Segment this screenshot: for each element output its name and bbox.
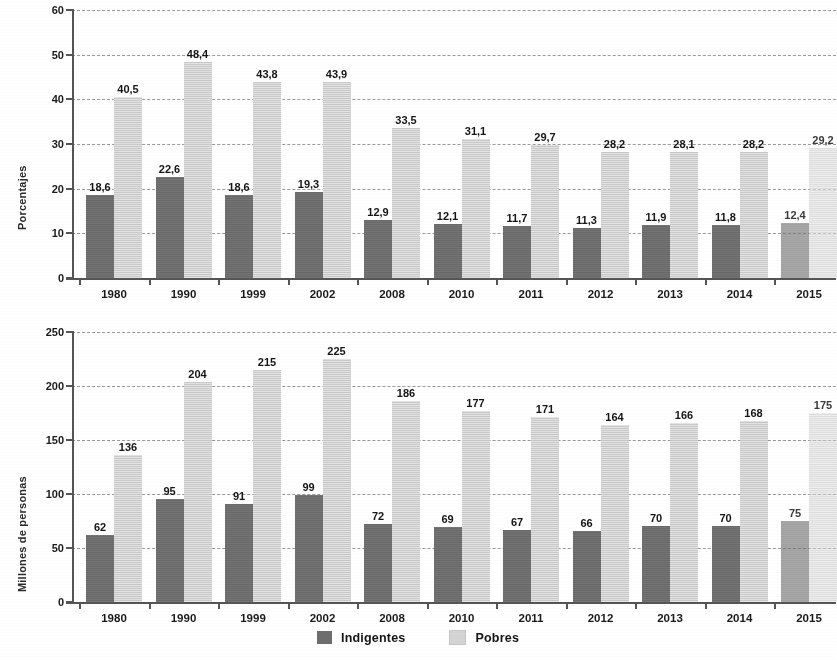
bar-indigentes-1999 bbox=[225, 195, 253, 278]
bar-indigentes-2013 bbox=[642, 526, 670, 602]
value-label-pobres-2015: 175 bbox=[814, 399, 832, 411]
y-tick-mark bbox=[66, 9, 74, 11]
x-axis-label-2013: 2013 bbox=[657, 612, 683, 624]
plot-area-millones: 0501001502002506213619809520419909121519… bbox=[72, 332, 836, 602]
x-tick-mark bbox=[357, 602, 359, 609]
value-label-pobres-2013: 166 bbox=[675, 409, 693, 421]
legend-swatch-indigentes bbox=[317, 631, 332, 644]
y-tick-label: 40 bbox=[52, 93, 64, 105]
x-axis-label-2008: 2008 bbox=[379, 288, 405, 300]
value-label-indigentes-1980: 18,6 bbox=[89, 181, 110, 193]
bar-indigentes-2002 bbox=[295, 495, 323, 602]
bar-indigentes-2008 bbox=[364, 220, 392, 278]
legend-label-indigentes: Indigentes bbox=[341, 631, 406, 645]
value-label-indigentes-2012: 11,3 bbox=[576, 214, 597, 226]
bar-indigentes-2015 bbox=[781, 223, 809, 278]
x-axis-label-2011: 2011 bbox=[519, 288, 544, 300]
value-label-indigentes-2010: 69 bbox=[441, 513, 453, 525]
x-axis-label-2010: 2010 bbox=[449, 288, 475, 300]
x-axis-label-2015: 2015 bbox=[796, 612, 822, 624]
bar-indigentes-1980 bbox=[86, 195, 114, 278]
bar-pobres-2002 bbox=[323, 82, 351, 278]
y-tick-mark bbox=[66, 232, 74, 234]
bar-pobres-2008 bbox=[392, 401, 420, 602]
x-axis-label-2011: 2011 bbox=[519, 612, 544, 624]
value-label-indigentes-2002: 99 bbox=[302, 481, 314, 493]
plot-area-porcentajes: 010203040506018,640,5198022,648,4199018,… bbox=[72, 10, 836, 278]
y-tick-mark bbox=[66, 385, 74, 387]
x-axis-label-2015: 2015 bbox=[796, 288, 822, 300]
bar-indigentes-2012 bbox=[573, 228, 601, 278]
chart-panel-porcentajes: Porcentajes 010203040506018,640,5198022,… bbox=[0, 0, 836, 310]
bar-pobres-2010 bbox=[462, 139, 490, 278]
x-tick-mark bbox=[705, 278, 707, 285]
value-label-indigentes-2002: 19,3 bbox=[298, 178, 319, 190]
bar-indigentes-1990 bbox=[156, 177, 184, 278]
x-tick-mark bbox=[427, 278, 429, 285]
x-tick-mark bbox=[218, 602, 220, 609]
value-label-indigentes-1990: 95 bbox=[163, 485, 175, 497]
x-axis-label-2002: 2002 bbox=[310, 288, 336, 300]
value-label-indigentes-2014: 11,8 bbox=[715, 211, 736, 223]
legend-swatch-pobres bbox=[449, 630, 466, 645]
bar-indigentes-2014 bbox=[712, 225, 740, 278]
value-label-pobres-2014: 168 bbox=[744, 407, 762, 419]
value-label-pobres-1980: 40,5 bbox=[117, 83, 138, 95]
bar-pobres-2013 bbox=[670, 152, 698, 278]
value-label-pobres-2013: 28,1 bbox=[673, 138, 694, 150]
x-axis-label-1999: 1999 bbox=[240, 288, 266, 300]
x-tick-mark bbox=[496, 602, 498, 609]
x-axis-label-2013: 2013 bbox=[657, 288, 683, 300]
x-tick-mark bbox=[635, 602, 637, 609]
x-axis-label-1990: 1990 bbox=[171, 612, 197, 624]
bar-indigentes-2011 bbox=[503, 530, 531, 602]
legend-item-pobres: Pobres bbox=[449, 630, 519, 645]
bar-indigentes-2010 bbox=[434, 527, 462, 602]
value-label-pobres-2008: 186 bbox=[397, 387, 415, 399]
bar-indigentes-2013 bbox=[642, 225, 670, 278]
gridline bbox=[72, 332, 836, 333]
bar-indigentes-2012 bbox=[573, 531, 601, 602]
value-label-pobres-2002: 43,9 bbox=[326, 68, 347, 80]
x-axis-line bbox=[66, 278, 836, 280]
y-tick-label: 50 bbox=[52, 49, 64, 61]
y-axis-title-millones: Millones de personas bbox=[16, 476, 28, 592]
value-label-indigentes-2008: 12,9 bbox=[367, 206, 388, 218]
value-label-pobres-1980: 136 bbox=[119, 441, 137, 453]
x-axis-label-2014: 2014 bbox=[727, 288, 753, 300]
y-tick-label: 30 bbox=[52, 138, 64, 150]
bar-pobres-2014 bbox=[740, 421, 768, 602]
value-label-indigentes-1990: 22,6 bbox=[159, 163, 180, 175]
y-tick-label: 0 bbox=[58, 596, 64, 608]
bar-pobres-2013 bbox=[670, 423, 698, 602]
bar-indigentes-2002 bbox=[295, 192, 323, 278]
value-label-pobres-2012: 28,2 bbox=[604, 138, 625, 150]
bar-pobres-2014 bbox=[740, 152, 768, 278]
bar-indigentes-1990 bbox=[156, 499, 184, 602]
value-label-pobres-2002: 225 bbox=[327, 345, 345, 357]
value-label-indigentes-1980: 62 bbox=[94, 521, 106, 533]
y-tick-label: 150 bbox=[46, 434, 64, 446]
bar-pobres-1999 bbox=[253, 82, 281, 278]
value-label-indigentes-2012: 66 bbox=[580, 517, 592, 529]
value-label-pobres-2010: 177 bbox=[466, 397, 484, 409]
x-tick-mark bbox=[566, 278, 568, 285]
bar-pobres-1999 bbox=[253, 370, 281, 602]
value-label-pobres-2015: 29,2 bbox=[812, 134, 833, 146]
bar-pobres-2012 bbox=[601, 152, 629, 278]
value-label-indigentes-2011: 11,7 bbox=[507, 212, 528, 224]
x-tick-mark bbox=[566, 602, 568, 609]
value-label-indigentes-2013: 11,9 bbox=[646, 211, 667, 223]
legend-item-indigentes: Indigentes bbox=[317, 631, 406, 645]
bar-pobres-2002 bbox=[323, 359, 351, 602]
y-tick-mark bbox=[66, 54, 74, 56]
value-label-indigentes-2013: 70 bbox=[650, 512, 662, 524]
bar-pobres-2015 bbox=[809, 413, 837, 602]
value-label-pobres-1999: 43,8 bbox=[256, 68, 277, 80]
value-label-pobres-2011: 29,7 bbox=[534, 131, 555, 143]
x-tick-mark bbox=[149, 278, 151, 285]
value-label-indigentes-2014: 70 bbox=[719, 512, 731, 524]
y-tick-mark bbox=[66, 493, 74, 495]
value-label-indigentes-2011: 67 bbox=[511, 516, 523, 528]
x-axis-label-2012: 2012 bbox=[588, 612, 614, 624]
